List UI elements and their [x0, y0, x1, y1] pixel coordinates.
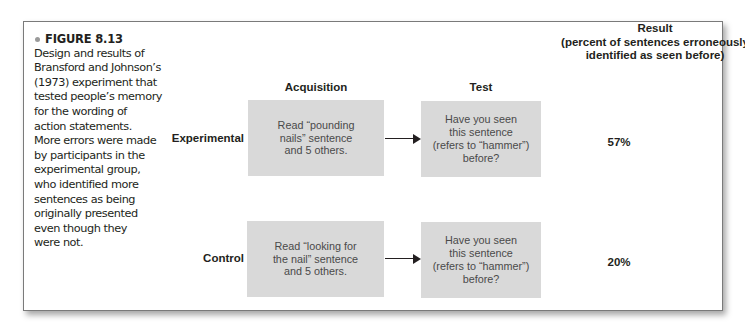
- caption-line: tested people’s memory: [34, 90, 174, 105]
- box-line: (refers to “hammer”): [433, 260, 530, 273]
- result-title: Result: [560, 22, 745, 36]
- caption-line: by participants in the: [34, 149, 174, 164]
- caption-line: who identified more: [34, 178, 174, 193]
- caption-line: were not.: [34, 236, 174, 251]
- box-line: Have you seen: [433, 234, 530, 247]
- arrow-right-icon: [385, 254, 421, 264]
- acquisition-box-experimental: Read “pounding nails” sentence and 5 oth…: [248, 100, 384, 176]
- bullet-icon: [35, 37, 40, 42]
- result-header: Result (percent of sentences erroneously…: [560, 22, 745, 63]
- result-value-control: 20%: [589, 256, 649, 268]
- box-line: the nail” sentence: [273, 253, 358, 266]
- arrow-right-icon: [385, 134, 421, 144]
- acquisition-header: Acquisition: [248, 81, 384, 93]
- test-box-control: Have you seen this sentence (refers to “…: [421, 222, 541, 298]
- box-line: and 5 others.: [273, 265, 358, 278]
- caption-text: Design and results of Bransford and John…: [34, 47, 174, 251]
- result-value-experimental: 57%: [589, 136, 649, 148]
- caption-line: action statements.: [34, 120, 174, 135]
- test-header: Test: [421, 81, 541, 93]
- box-line: (refers to “hammer”): [433, 139, 530, 152]
- figure-caption: FIGURE 8.13 Design and results of Bransf…: [34, 32, 174, 251]
- caption-line: More errors were made: [34, 134, 174, 149]
- acquisition-box-control: Read “looking for the nail” sentence and…: [247, 221, 384, 297]
- box-line: this sentence: [433, 126, 530, 139]
- caption-line: even though they: [34, 222, 174, 237]
- caption-line: sentences as being: [34, 193, 174, 208]
- box-line: Have you seen: [433, 113, 530, 126]
- box-line: nails” sentence: [278, 132, 355, 145]
- caption-line: Design and results of: [34, 47, 174, 62]
- box-line: and 5 others.: [278, 144, 355, 157]
- result-subtitle: (percent of sentences erroneously: [560, 36, 745, 50]
- box-line: before?: [433, 273, 530, 286]
- caption-line: Bransford and Johnson’s: [34, 61, 174, 76]
- box-line: before?: [433, 152, 530, 165]
- box-line: Read “looking for: [273, 240, 358, 253]
- figure-label: FIGURE 8.13: [34, 32, 174, 47]
- caption-line: originally presented: [34, 207, 174, 222]
- box-line: Read “pounding: [278, 119, 355, 132]
- caption-line: (1973) experiment that: [34, 76, 174, 91]
- test-box-experimental: Have you seen this sentence (refers to “…: [421, 101, 541, 177]
- box-line: this sentence: [433, 247, 530, 260]
- caption-line: experimental group,: [34, 163, 174, 178]
- figure-number: FIGURE 8.13: [45, 32, 123, 47]
- row-label-experimental: Experimental: [160, 132, 244, 144]
- row-label-control: Control: [160, 252, 244, 264]
- caption-line: for the wording of: [34, 105, 174, 120]
- result-subtitle: identified as seen before): [560, 49, 745, 63]
